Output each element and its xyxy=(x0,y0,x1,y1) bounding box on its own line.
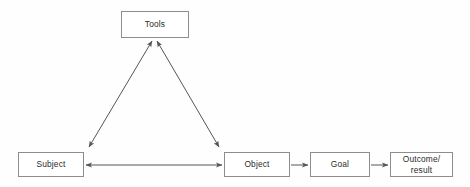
node-outcome: Outcome/ result xyxy=(390,152,453,177)
edge-tools-object xyxy=(157,41,219,147)
node-subject: Subject xyxy=(18,152,84,177)
edge-subject-tools xyxy=(89,41,152,147)
node-goal: Goal xyxy=(310,152,370,177)
diagram-canvas: Tools Subject Object Goal Outcome/ resul… xyxy=(0,0,470,187)
node-tools: Tools xyxy=(121,11,189,38)
node-object: Object xyxy=(224,152,290,177)
